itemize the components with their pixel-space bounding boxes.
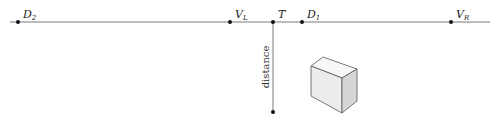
point-label-vr: VR [456,8,470,22]
point-t [271,20,275,24]
distance-label: distance [260,46,271,89]
point-vl [228,20,232,24]
distance-end-point [271,110,275,114]
point-label-d2: D2 [22,8,37,22]
point-vr [449,20,453,24]
point-label-t: T [278,8,287,21]
point-label-vl: VL [235,8,248,22]
box-figure [311,57,357,113]
perspective-diagram: D2VLTD1VR distance [0,0,498,120]
point-d2 [16,20,20,24]
point-d1 [300,20,304,24]
point-label-d1: D1 [306,8,320,22]
